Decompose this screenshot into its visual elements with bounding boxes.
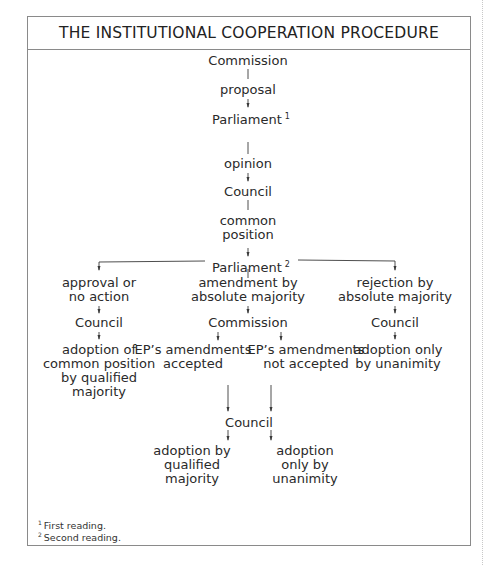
node-rejection: rejection byabsolute majority [338,276,452,304]
node-label: no action [62,290,136,304]
footnote-text: First reading. [44,520,106,531]
node-label: Parliament [212,260,282,275]
node-adoption-qualified-majority: adoption byqualifiedmajority [153,444,230,486]
node-label: by qualified [43,371,155,385]
node-adoption-unanimity-right: adoption onlyby unanimity [354,343,443,371]
footnote-text: Second reading. [44,532,121,543]
node-parliament-second: Parliament2 [212,261,290,275]
node-label: EP’s amendments [135,343,252,357]
node-label: unanimity [272,472,337,486]
node-label: approval or [62,276,136,290]
node-label: amendment by [191,276,305,290]
node-commission-mid: Commission [208,316,287,330]
node-label: adoption by [153,444,230,458]
node-label: Commission [208,53,287,68]
node-label: Council [224,184,272,199]
node-opinion: opinion [224,157,272,171]
node-label: EP’s amendments [248,343,365,357]
node-label: Council [75,315,123,330]
node-council-bottom: Council [225,416,273,430]
node-label: accepted [135,357,252,371]
node-label: rejection by [338,276,452,290]
footnote-2: 2Second reading. [38,532,121,544]
node-label: Council [225,415,273,430]
node-label: adoption only [354,343,443,357]
footnote-1: 1First reading. [38,520,106,532]
node-label: adoption [272,444,337,458]
node-label: only by [272,458,337,472]
node-label: absolute majority [191,290,305,304]
node-label: common [220,214,277,228]
node-proposal: proposal [220,83,276,97]
node-parliament-first: Parliament1 [212,113,290,127]
node-council: Council [224,185,272,199]
node-common-position: commonposition [220,214,277,242]
node-label: opinion [224,156,272,171]
footnote-mark: 1 [38,519,42,526]
node-label: Parliament [212,112,282,127]
node-ep-amendments-not-accepted: EP’s amendmentsnot accepted [248,343,365,371]
node-label: not accepted [248,357,365,371]
footnote-mark: 2 [38,531,42,538]
node-amendment: amendment byabsolute majority [191,276,305,304]
node-label: proposal [220,82,276,97]
node-label: absolute majority [338,290,452,304]
node-label: by unanimity [354,357,443,371]
node-council-left: Council [75,316,123,330]
node-adoption-only-by-unanimity: adoptiononly byunanimity [272,444,337,486]
node-label: Council [371,315,419,330]
node-label: position [220,228,277,242]
footnote-marker: 1 [285,112,290,121]
node-label: majority [43,385,155,399]
node-label: majority [153,472,230,486]
footnote-marker: 2 [285,260,290,269]
node-council-right: Council [371,316,419,330]
node-label: qualified [153,458,230,472]
node-approval-or-no-action: approval orno action [62,276,136,304]
node-label: Commission [208,315,287,330]
node-ep-amendments-accepted: EP’s amendmentsaccepted [135,343,252,371]
node-commission: Commission [208,54,287,68]
